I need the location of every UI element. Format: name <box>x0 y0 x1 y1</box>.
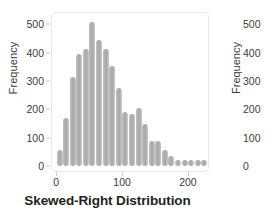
histogram-bar <box>122 112 128 166</box>
histogram-bar <box>57 150 63 166</box>
y-tick-mark <box>46 52 50 53</box>
histogram-bar <box>168 156 174 166</box>
y-tick-label-secondary: 500 <box>243 18 272 30</box>
y-tick-mark <box>46 166 50 167</box>
histogram-bar <box>155 141 161 166</box>
x-axis-tick-labels: 0100200 <box>51 176 209 192</box>
y-tick-mark <box>46 24 50 25</box>
histogram-bars <box>51 12 209 172</box>
histogram-bar <box>116 88 122 166</box>
histogram-bar <box>188 160 194 166</box>
histogram-bar <box>70 77 76 166</box>
histogram-bar <box>142 124 148 166</box>
y-tick-label-secondary: 200 <box>243 103 272 115</box>
y-tick-label-secondary: 0 <box>243 160 272 172</box>
histogram-bar <box>83 49 89 166</box>
y-axis-tick-labels-secondary: 5004003002001000 <box>243 0 272 180</box>
y-tick-label: 100 <box>16 132 44 144</box>
histogram-bar <box>103 49 109 166</box>
histogram-bar <box>96 40 102 166</box>
y-tick-label-secondary: 400 <box>243 47 272 59</box>
histogram-chart-skewed-right: Frequency 0100200300400500 0100200 Skewe… <box>0 0 215 217</box>
x-tick-label: 100 <box>113 176 131 188</box>
histogram-chart-secondary-clipped: Frequency 5004003002001000 <box>215 0 272 217</box>
y-tick-mark <box>46 81 50 82</box>
y-tick-label-secondary: 100 <box>243 132 272 144</box>
histogram-bar <box>149 141 155 166</box>
y-tick-mark <box>46 137 50 138</box>
histogram-bar <box>63 118 69 166</box>
histogram-bar <box>89 22 95 166</box>
histogram-bar <box>109 66 115 166</box>
histogram-bar <box>195 160 201 166</box>
x-tick-label: 200 <box>179 176 197 188</box>
y-tick-label: 300 <box>16 75 44 87</box>
y-tick-label: 200 <box>16 103 44 115</box>
y-tick-mark <box>46 109 50 110</box>
histogram-bar <box>175 160 181 166</box>
chart-title: Skewed-Right Distribution <box>0 193 215 208</box>
histogram-bar <box>182 160 188 166</box>
x-tick-label: 0 <box>53 176 59 188</box>
histogram-bar <box>129 114 135 166</box>
y-tick-label: 400 <box>16 47 44 59</box>
histogram-bar <box>76 54 82 166</box>
y-tick-label: 500 <box>16 18 44 30</box>
histogram-bar <box>162 150 168 166</box>
histogram-bar <box>201 160 207 166</box>
y-tick-label-secondary: 300 <box>243 75 272 87</box>
histogram-bar <box>136 108 142 166</box>
y-axis-tick-labels: 0100200300400500 <box>16 0 44 180</box>
y-axis-title-secondary: Frequency <box>230 33 242 103</box>
y-tick-label: 0 <box>16 160 44 172</box>
